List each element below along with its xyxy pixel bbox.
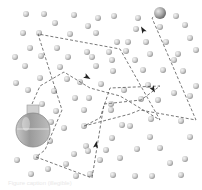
figure-caption: Figure caption (illegible) bbox=[8, 180, 72, 186]
molecule bbox=[157, 24, 163, 30]
molecule bbox=[114, 39, 120, 45]
molecule bbox=[45, 166, 51, 172]
molecule bbox=[171, 90, 177, 96]
molecule bbox=[89, 54, 95, 60]
molecule bbox=[119, 122, 125, 128]
molecule bbox=[133, 26, 139, 32]
molecule bbox=[81, 107, 87, 113]
molecule bbox=[106, 49, 112, 55]
molecule bbox=[103, 147, 109, 153]
molecule bbox=[52, 20, 58, 26]
molecule bbox=[25, 87, 31, 93]
molecule bbox=[67, 31, 73, 37]
molecule bbox=[39, 101, 45, 107]
molecule bbox=[182, 156, 188, 162]
molecule bbox=[134, 146, 140, 152]
arrowhead-icon bbox=[83, 73, 92, 81]
molecule bbox=[20, 30, 26, 36]
molecule bbox=[135, 15, 141, 21]
molecule bbox=[72, 95, 78, 101]
molecule bbox=[193, 83, 199, 89]
molecule bbox=[167, 160, 173, 166]
molecule bbox=[63, 161, 69, 167]
molecule bbox=[86, 95, 92, 101]
molecule bbox=[140, 67, 146, 73]
molecule bbox=[93, 63, 99, 69]
molecule bbox=[175, 51, 181, 57]
molecule bbox=[160, 67, 166, 73]
molecule bbox=[123, 48, 129, 54]
molecule bbox=[38, 53, 44, 59]
molecule bbox=[71, 151, 77, 157]
molecule bbox=[41, 11, 47, 17]
molecule bbox=[163, 39, 169, 45]
molecule bbox=[110, 172, 116, 178]
molecule bbox=[187, 35, 193, 41]
molecule bbox=[61, 125, 67, 131]
molecule bbox=[145, 82, 151, 88]
molecule bbox=[22, 63, 28, 69]
molecule bbox=[125, 39, 131, 45]
molecule bbox=[187, 134, 193, 140]
molecule bbox=[64, 76, 70, 82]
gas-molecules bbox=[12, 11, 199, 179]
random-walk-path bbox=[32, 13, 196, 178]
molecule bbox=[182, 22, 188, 28]
molecule bbox=[85, 23, 91, 29]
molecule bbox=[157, 145, 163, 151]
molecule bbox=[149, 173, 155, 179]
molecule bbox=[36, 30, 42, 36]
molecule bbox=[143, 39, 149, 45]
molecule bbox=[109, 57, 115, 63]
molecule bbox=[187, 93, 193, 99]
molecule bbox=[109, 135, 115, 141]
molecule bbox=[173, 13, 179, 19]
molecule bbox=[111, 13, 117, 19]
molecule bbox=[138, 96, 144, 102]
random-walk-diagram bbox=[0, 0, 202, 190]
molecule bbox=[95, 15, 101, 21]
molecule bbox=[12, 54, 18, 60]
molecule bbox=[147, 134, 153, 140]
target-particle bbox=[154, 7, 166, 19]
molecule bbox=[71, 12, 77, 18]
molecule bbox=[13, 80, 19, 86]
molecule bbox=[110, 68, 116, 74]
molecule bbox=[98, 81, 104, 87]
molecule bbox=[148, 116, 154, 122]
molecule bbox=[127, 123, 133, 129]
molecule bbox=[147, 51, 153, 57]
molecule bbox=[171, 57, 177, 63]
molecule bbox=[23, 11, 29, 17]
molecule bbox=[73, 173, 79, 179]
molecule bbox=[93, 30, 99, 36]
molecule bbox=[57, 64, 63, 70]
flask-highlight bbox=[22, 117, 30, 131]
molecule bbox=[27, 45, 33, 51]
molecule bbox=[132, 57, 138, 63]
molecule bbox=[108, 101, 114, 107]
molecule bbox=[65, 54, 71, 60]
molecule bbox=[180, 68, 186, 74]
molecule bbox=[178, 172, 184, 178]
molecule bbox=[178, 118, 184, 124]
molecule bbox=[53, 108, 59, 114]
molecule bbox=[84, 49, 90, 55]
molecule bbox=[54, 45, 60, 51]
molecule bbox=[121, 87, 127, 93]
molecule bbox=[14, 157, 20, 163]
molecule bbox=[97, 157, 103, 163]
molecule bbox=[85, 148, 91, 154]
flask-icon bbox=[16, 105, 50, 147]
molecule bbox=[37, 75, 43, 81]
molecule bbox=[28, 171, 34, 177]
molecule bbox=[108, 107, 114, 113]
flask-body bbox=[16, 113, 50, 147]
molecule bbox=[132, 173, 138, 179]
arrowhead-icon bbox=[139, 25, 147, 34]
molecule bbox=[155, 97, 161, 103]
molecule bbox=[193, 47, 199, 53]
molecule bbox=[117, 155, 123, 161]
